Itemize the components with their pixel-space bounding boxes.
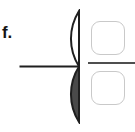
fraction-bar	[88, 62, 135, 64]
item-label: f.	[2, 23, 12, 43]
semicircle-figure	[17, 9, 85, 124]
denominator-input-box[interactable]	[91, 71, 125, 105]
lower-quarter-circle-shaded	[71, 67, 79, 123]
fraction-answer-field	[88, 18, 134, 112]
upper-quarter-circle-unshaded	[71, 11, 79, 67]
worksheet-item: f.	[0, 0, 135, 132]
numerator-input-box[interactable]	[91, 21, 125, 55]
